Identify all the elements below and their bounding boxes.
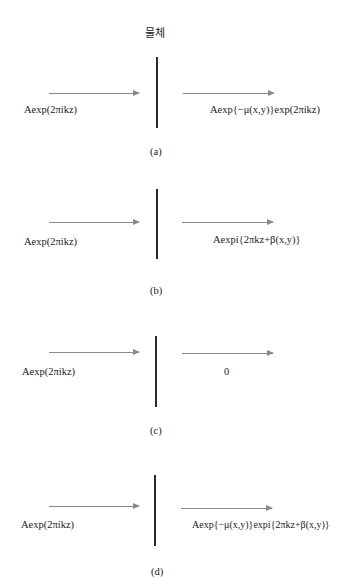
input-wave-label: Aexp(2πikz) [21,519,74,530]
panel-d: Aexp(2πikz) Aexp{−μ(x,y)}expi{2πkz+β(x,y… [0,0,353,588]
object-bar [154,475,156,546]
output-wave-label: Aexp{−μ(x,y)}expi{2πkz+β(x,y)} [192,519,330,530]
panel-caption: (d) [151,566,163,577]
incident-arrow [49,506,139,507]
transmitted-arrow [181,508,272,509]
